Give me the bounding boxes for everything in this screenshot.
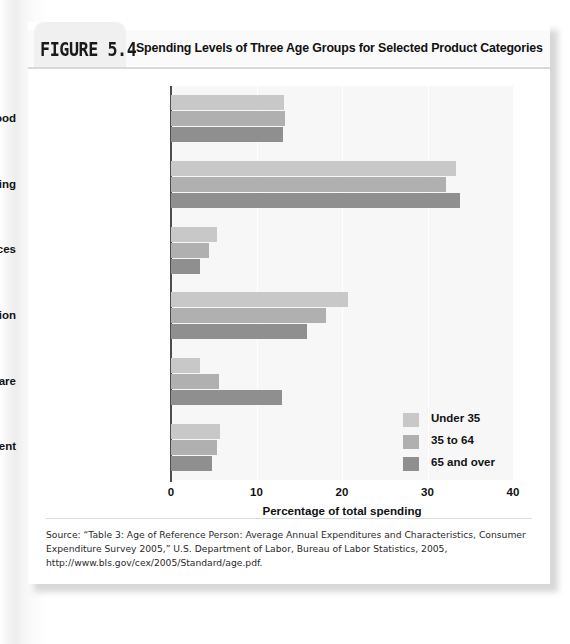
bar	[171, 424, 220, 439]
bar	[171, 177, 446, 192]
legend-label: 65 and over	[431, 456, 495, 468]
x-tick-label: 30	[408, 486, 448, 498]
y-axis-line	[170, 86, 172, 482]
x-tick-label: 20	[322, 486, 362, 498]
bar	[171, 259, 200, 274]
bar-group	[171, 227, 513, 274]
source-note: Source: “Table 3: Age of Reference Perso…	[46, 528, 536, 570]
category-label: Food	[0, 112, 16, 124]
legend-label: Under 35	[431, 412, 480, 424]
bar	[171, 193, 460, 208]
bar	[171, 95, 284, 110]
source-divider	[46, 518, 532, 519]
legend-item: 65 and over	[403, 454, 533, 476]
x-axis-title: Percentage of total spending	[171, 504, 513, 517]
bar	[171, 456, 212, 471]
gridline	[257, 86, 258, 480]
bar	[171, 227, 217, 242]
bar	[171, 161, 456, 176]
bar	[171, 292, 348, 307]
figure-card: FIGURE 5.4 Spending Levels of Three Age …	[28, 22, 550, 584]
chart-area: FoodHousingApparel and servicesTransport…	[28, 72, 550, 520]
category-label: Health care	[0, 375, 16, 387]
bar-group	[171, 358, 513, 405]
legend-swatch	[403, 413, 419, 427]
category-label: Housing	[0, 178, 16, 190]
legend: Under 3535 to 6465 and over	[403, 410, 533, 476]
bar-group	[171, 292, 513, 339]
x-tick-label: 40	[493, 486, 533, 498]
bar	[171, 358, 200, 373]
header-rule-bottom	[28, 67, 550, 69]
figure-number-label: FIGURE 5.4	[40, 38, 116, 60]
bar	[171, 127, 283, 142]
gridline	[342, 86, 343, 480]
legend-label: 35 to 64	[431, 434, 474, 446]
legend-item: 35 to 64	[403, 432, 533, 454]
x-tick-label: 0	[151, 486, 191, 498]
bar	[171, 111, 285, 126]
bar-group	[171, 161, 513, 208]
bar	[171, 308, 326, 323]
figure-title: Spending Levels of Three Age Groups for …	[136, 41, 548, 55]
bar	[171, 324, 307, 339]
bar	[171, 440, 217, 455]
legend-item: Under 35	[403, 410, 533, 432]
x-tick-label: 10	[237, 486, 277, 498]
legend-swatch	[403, 457, 419, 471]
bar-group	[171, 95, 513, 142]
legend-swatch	[403, 435, 419, 449]
category-label: Transportation	[0, 309, 16, 321]
category-label: Entertainment	[0, 440, 16, 452]
bar	[171, 243, 209, 258]
bar	[171, 374, 219, 389]
category-label: Apparel and services	[0, 243, 16, 255]
bar	[171, 390, 282, 405]
